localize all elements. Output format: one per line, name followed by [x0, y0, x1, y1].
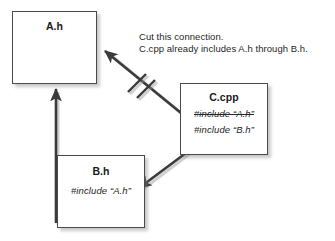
node-include-line: #include “B.h”	[181, 124, 267, 135]
node-box-bh[interactable]: B.h #include “A.h”	[57, 155, 145, 228]
node-title-ah: A.h	[13, 20, 96, 32]
cut-mark-icon	[128, 74, 157, 100]
connector-ccpp-to-bh	[139, 150, 190, 188]
diagram-canvas: A.h B.h #include “A.h” C.cpp #include “A…	[0, 0, 335, 241]
connector-ccpp-to-ah	[105, 51, 186, 117]
caption-line-1: Cut this connection.	[139, 31, 308, 43]
node-include-line: #include “A.h”	[58, 185, 144, 196]
node-box-ah[interactable]: A.h	[12, 11, 97, 84]
node-box-ccpp[interactable]: C.cpp #include “A.h” #include “B.h”	[180, 83, 268, 155]
caption-line-2: C.cpp already includes A.h through B.h.	[139, 43, 308, 55]
caption-annotation: Cut this connection. C.cpp already inclu…	[139, 31, 308, 55]
node-include-line-struck: #include “A.h”	[181, 108, 267, 119]
node-title-bh: B.h	[58, 165, 144, 177]
node-title-ccpp: C.cpp	[181, 91, 267, 103]
